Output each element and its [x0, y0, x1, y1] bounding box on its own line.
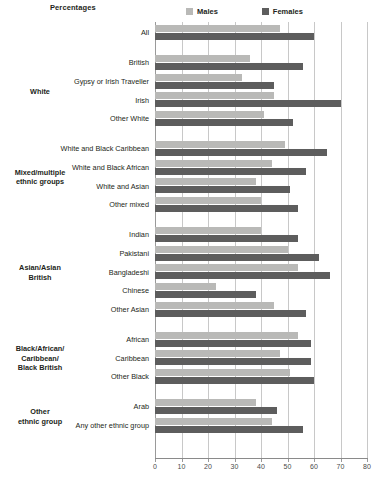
- bar-row: [155, 349, 367, 367]
- bar-females: [155, 205, 298, 212]
- group-label: Otherethnic group: [0, 407, 80, 426]
- x-tick-mark: [314, 459, 315, 462]
- bar-row: [155, 73, 367, 91]
- bar-females: [155, 235, 298, 242]
- legend-item-females: Females: [262, 7, 303, 16]
- group-label: Asian/AsianBritish: [0, 263, 80, 282]
- bar-females: [155, 291, 256, 298]
- bar-males: [155, 350, 280, 357]
- x-tick-label: 60: [310, 463, 318, 470]
- bar-females: [155, 407, 277, 414]
- bar-males: [155, 111, 264, 118]
- bar-males: [155, 74, 242, 81]
- bar-row: [155, 398, 367, 416]
- group-label: White: [0, 87, 80, 97]
- bar-males: [155, 55, 250, 62]
- group-label: Mixed/multipleethnic groups: [0, 168, 80, 187]
- bar-females: [155, 168, 306, 175]
- x-tick-mark: [341, 459, 342, 462]
- x-tick-mark: [182, 459, 183, 462]
- legend-label-females: Females: [273, 7, 303, 16]
- bar-row: [155, 282, 367, 300]
- x-tick-label: 30: [231, 463, 239, 470]
- bar-row: [155, 140, 367, 158]
- bar-females: [155, 358, 311, 365]
- bar-row: [155, 417, 367, 435]
- bar-females: [155, 340, 311, 347]
- bar-rows: [155, 22, 367, 458]
- bar-row: [155, 91, 367, 109]
- bar-row: [155, 54, 367, 72]
- group-axis-labels: WhiteMixed/multipleethnic groupsAsian/As…: [0, 22, 152, 458]
- bar-females: [155, 377, 314, 384]
- square-swatch-icon: [186, 8, 193, 15]
- x-tick-mark: [288, 459, 289, 462]
- bar-males: [155, 227, 261, 234]
- gridline-80: [367, 22, 368, 458]
- bar-males: [155, 246, 288, 253]
- x-tick-mark: [261, 459, 262, 462]
- bar-females: [155, 310, 306, 317]
- legend-item-males: Males: [186, 7, 218, 16]
- bar-row: [155, 177, 367, 195]
- x-tick-label: 40: [257, 463, 265, 470]
- bar-row: [155, 331, 367, 349]
- x-axis-ticks: 01020304050607080: [155, 459, 367, 475]
- bar-males: [155, 399, 256, 406]
- bar-males: [155, 160, 272, 167]
- bar-row: [155, 301, 367, 319]
- square-swatch-icon: [262, 8, 269, 15]
- x-tick-mark: [155, 459, 156, 462]
- x-tick-label: 0: [153, 463, 157, 470]
- x-tick-mark: [367, 459, 368, 462]
- bar-males: [155, 302, 274, 309]
- x-tick-label: 10: [178, 463, 186, 470]
- bar-females: [155, 33, 314, 40]
- chart-legend: Males Females: [186, 5, 303, 17]
- bar-row: [155, 196, 367, 214]
- bar-row: [155, 110, 367, 128]
- bar-males: [155, 264, 298, 271]
- bar-males: [155, 369, 290, 376]
- bar-row: [155, 226, 367, 244]
- bar-row: [155, 368, 367, 386]
- bar-males: [155, 92, 274, 99]
- bar-males: [155, 178, 256, 185]
- ethnicity-percentages-bar-chart: Percentages Males Females AllBritishGyps…: [0, 0, 375, 479]
- bar-row: [155, 159, 367, 177]
- bar-females: [155, 272, 330, 279]
- bar-males: [155, 25, 280, 32]
- bar-females: [155, 119, 293, 126]
- bar-females: [155, 149, 327, 156]
- bar-males: [155, 141, 285, 148]
- bar-males: [155, 332, 298, 339]
- bar-females: [155, 426, 303, 433]
- plot-area: [155, 22, 367, 458]
- bar-females: [155, 82, 274, 89]
- bar-males: [155, 197, 261, 204]
- x-tick-label: 50: [284, 463, 292, 470]
- x-tick-label: 70: [337, 463, 345, 470]
- x-tick-label: 80: [363, 463, 371, 470]
- x-tick-label: 20: [204, 463, 212, 470]
- bar-females: [155, 63, 303, 70]
- bar-males: [155, 283, 216, 290]
- bar-males: [155, 418, 272, 425]
- axis-title: Percentages: [50, 3, 96, 12]
- group-label: Black/African/Caribbean/Black British: [0, 344, 80, 373]
- x-tick-mark: [235, 459, 236, 462]
- legend-label-males: Males: [197, 7, 218, 16]
- bar-row: [155, 24, 367, 42]
- x-tick-mark: [208, 459, 209, 462]
- bar-females: [155, 254, 319, 261]
- bar-females: [155, 100, 341, 107]
- bar-row: [155, 245, 367, 263]
- bar-females: [155, 186, 290, 193]
- bar-row: [155, 263, 367, 281]
